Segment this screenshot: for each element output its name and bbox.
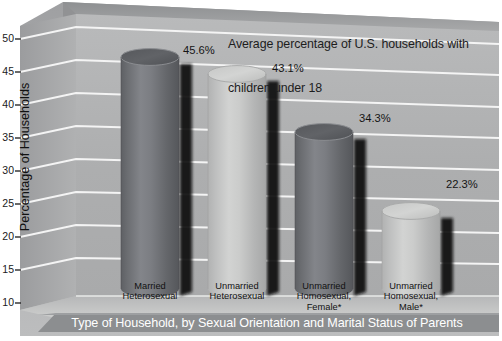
category-label-unmarried-homosexual-male: Unmarried Homosexual, Male*	[359, 281, 463, 312]
y-tick-label-45: 45	[0, 65, 14, 77]
y-tick-label-30: 30	[0, 164, 14, 176]
category-label-line: Homosexual,	[359, 291, 463, 301]
category-label-line: Male*	[359, 302, 463, 312]
y-tick-label-25: 25	[0, 197, 14, 209]
bar-married-heterosexual[interactable]	[121, 49, 192, 297]
bar-unmarried-homosexual-female[interactable]	[295, 124, 366, 297]
category-label-line: Unmarried	[359, 281, 463, 291]
chart-title-line-1: Average percentage of U.S. households wi…	[228, 37, 496, 52]
value-label-unmarried-heterosexual: 43.1%	[272, 62, 304, 74]
y-tick-label-40: 40	[0, 98, 14, 110]
y-axis-title: Percentage of Households	[18, 77, 32, 237]
value-label-unmarried-homosexual-female: 34.3%	[359, 112, 391, 124]
value-label-unmarried-homosexual-male: 22.3%	[446, 178, 478, 190]
y-tick-label-15: 15	[0, 263, 14, 275]
chart-title-line-2: children under 18	[228, 81, 496, 96]
chart-title: Average percentage of U.S. households wi…	[228, 8, 496, 124]
y-tick-label-10: 10	[0, 296, 14, 308]
chart-figure: Average percentage of U.S. households wi…	[0, 0, 502, 341]
y-tick-label-50: 50	[0, 32, 14, 44]
x-axis-title: Type of Household, by Sexual Orientation…	[58, 316, 476, 330]
value-label-married-heterosexual: 45.6%	[183, 44, 215, 56]
y-tick-label-35: 35	[0, 131, 14, 143]
y-tick-label-20: 20	[0, 230, 14, 242]
